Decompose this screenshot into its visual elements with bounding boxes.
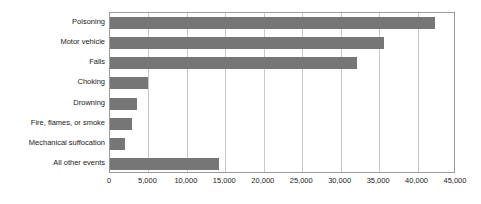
category-label: Fire, flames, or smoke	[1, 118, 105, 127]
category-label: Mechanical suffocation	[1, 138, 105, 147]
category-label: Falls	[1, 57, 105, 66]
x-tick-label: 40,000	[405, 176, 428, 186]
x-tick-label: 5,000	[138, 176, 157, 186]
bar	[110, 138, 125, 150]
x-tick-label: 15,000	[213, 176, 236, 186]
bar-band	[110, 94, 456, 114]
x-tick-label: 20,000	[251, 176, 274, 186]
bar	[110, 98, 137, 110]
bar-chart: PoisoningMotor vehicleFallsChokingDrowni…	[0, 0, 481, 204]
bar	[110, 158, 219, 170]
bar-band	[110, 13, 456, 33]
x-tick-label: 30,000	[328, 176, 351, 186]
bar	[110, 77, 148, 89]
x-tick-label: 45,000	[444, 176, 467, 186]
x-tick-label: 25,000	[290, 176, 313, 186]
x-tick-label: 10,000	[174, 176, 197, 186]
category-axis-labels: PoisoningMotor vehicleFallsChokingDrowni…	[0, 12, 105, 173]
bar	[110, 17, 435, 29]
bar	[110, 37, 384, 49]
category-label: Drowning	[1, 98, 105, 107]
bar	[110, 57, 357, 69]
category-label: Motor vehicle	[1, 37, 105, 46]
x-tick-label: 0	[107, 176, 111, 186]
bar	[110, 118, 132, 130]
bar-band	[110, 73, 456, 93]
value-axis-labels: 05,00010,00015,00020,00025,00030,00035,0…	[0, 176, 481, 190]
bar-band	[110, 53, 456, 73]
plot-area	[109, 12, 455, 173]
bar-band	[110, 114, 456, 134]
category-label: All other events	[1, 158, 105, 167]
category-label: Choking	[1, 77, 105, 86]
category-label: Poisoning	[1, 17, 105, 26]
bar-band	[110, 33, 456, 53]
bar-band	[110, 154, 456, 174]
x-tick-label: 35,000	[367, 176, 390, 186]
bar-band	[110, 134, 456, 154]
